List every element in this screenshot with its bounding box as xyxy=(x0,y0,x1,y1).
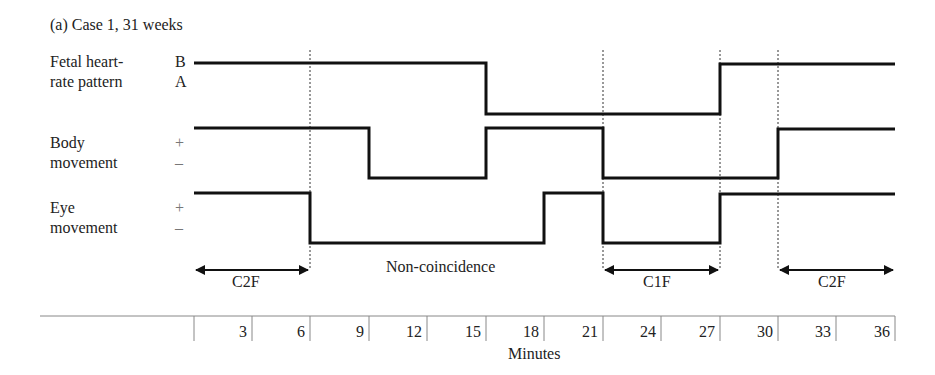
tick-label: 21 xyxy=(548,323,598,341)
tick-label: 36 xyxy=(840,323,890,341)
span-label-c2f-start: C2F xyxy=(232,273,260,291)
tick-label: 6 xyxy=(255,323,305,341)
tick-label: 3 xyxy=(197,323,247,341)
tick-label: 15 xyxy=(431,323,481,341)
timing-diagram xyxy=(0,0,935,375)
tick-label: 30 xyxy=(723,323,773,341)
axis-title: Minutes xyxy=(508,345,560,363)
span-label-non-coincidence: Non-coincidence xyxy=(386,258,495,276)
span-label-c2f-end: C2F xyxy=(818,273,846,291)
tick-label: 9 xyxy=(314,323,364,341)
body-movement-trace xyxy=(194,128,895,178)
tick-label: 18 xyxy=(489,323,539,341)
tick-label: 12 xyxy=(372,323,422,341)
fhr-trace xyxy=(194,63,895,114)
tick-label: 24 xyxy=(606,323,656,341)
tick-label: 27 xyxy=(665,323,715,341)
tick-label: 33 xyxy=(781,323,831,341)
eye-movement-trace xyxy=(194,193,895,243)
span-label-c1f: C1F xyxy=(643,273,671,291)
